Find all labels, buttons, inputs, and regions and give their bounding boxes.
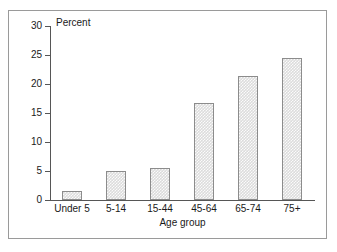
x-tick-label: 5-14 <box>94 203 138 215</box>
y-tick-label: 20 <box>2 79 42 89</box>
bar <box>106 171 126 200</box>
bar <box>194 103 214 200</box>
plot-area <box>50 26 314 200</box>
x-axis-title: Age group <box>50 217 315 228</box>
x-tick-label: 15-44 <box>138 203 182 215</box>
y-tick-label-wrap: 5 <box>0 166 42 176</box>
x-tick-label: Under 5 <box>50 203 94 215</box>
chart-figure: Percent 051015202530 Under 55-1415-4445-… <box>0 0 337 252</box>
y-tick-label: 25 <box>2 50 42 60</box>
y-tick-label: 30 <box>2 21 42 31</box>
x-tick-label: 65-74 <box>226 203 270 215</box>
bar <box>238 76 258 200</box>
bar <box>282 58 302 200</box>
y-tick-label-wrap: 25 <box>0 50 42 60</box>
bar <box>62 191 82 200</box>
x-tick-label: 75+ <box>270 203 314 215</box>
bar <box>150 168 170 200</box>
x-tick-label: 45-64 <box>182 203 226 215</box>
y-tick-label: 15 <box>2 108 42 118</box>
y-tick-label-wrap: 30 <box>0 21 42 31</box>
y-tick-label-wrap: 20 <box>0 79 42 89</box>
x-axis-line <box>50 200 315 201</box>
y-tick-label-wrap: 15 <box>0 108 42 118</box>
y-tick-mark <box>45 200 50 201</box>
y-tick-label-wrap: 0 <box>0 195 42 205</box>
y-tick-label: 0 <box>2 195 42 205</box>
y-tick-label-wrap: 10 <box>0 137 42 147</box>
y-tick-label: 5 <box>2 166 42 176</box>
y-tick-label: 10 <box>2 137 42 147</box>
